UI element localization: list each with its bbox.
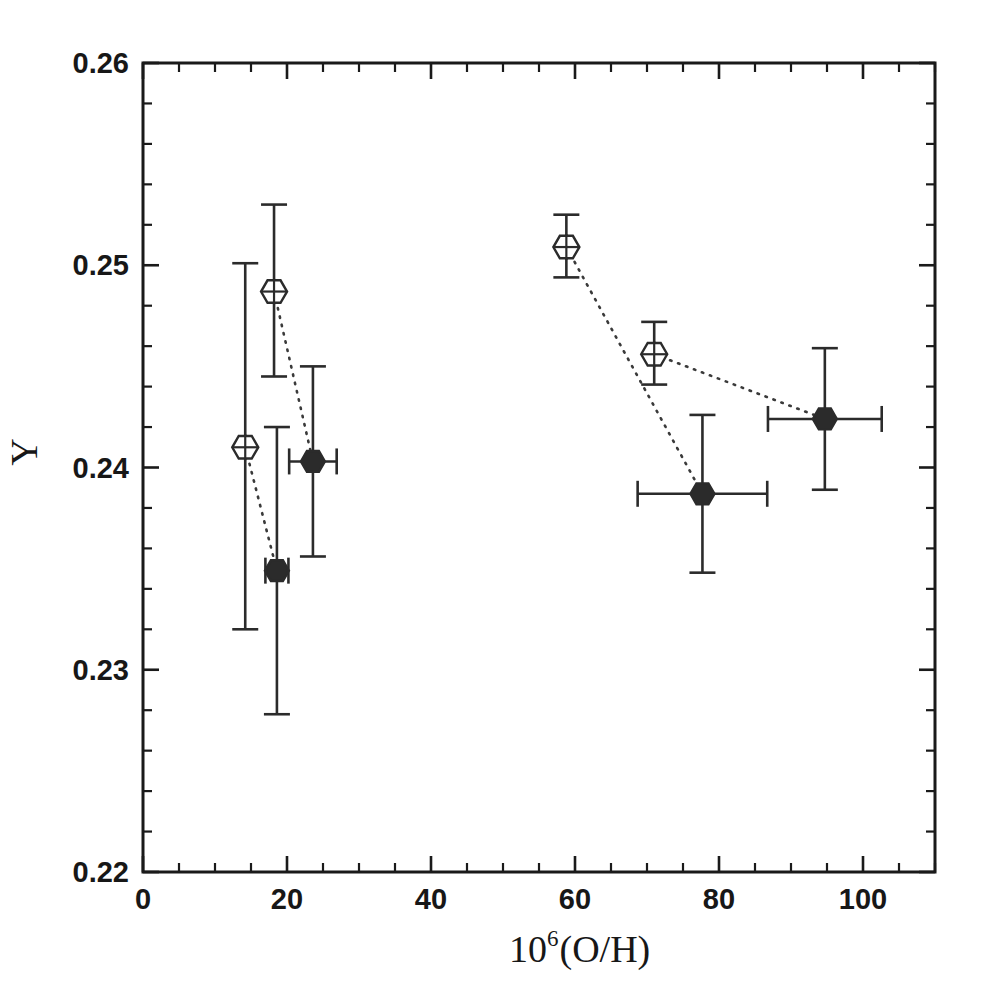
- data-markers: [232, 234, 837, 581]
- x-tick-label: 20: [271, 883, 303, 915]
- axis-tick-labels: 0204060801000.220.230.240.250.26: [73, 47, 888, 915]
- x-axis-label-exponent: 6: [547, 926, 559, 951]
- axis-ticks: [143, 63, 935, 872]
- x-tick-label: 100: [839, 883, 887, 915]
- x-tick-label: 0: [135, 883, 151, 915]
- x-tick-label: 60: [559, 883, 591, 915]
- filled-circle-marker: [265, 560, 289, 581]
- connector-line: [654, 354, 825, 419]
- x-tick-label: 40: [415, 883, 447, 915]
- connector-lines: [245, 247, 825, 571]
- y-tick-label: 0.25: [73, 249, 129, 281]
- connector-line: [245, 447, 277, 570]
- plot-canvas: 0204060801000.220.230.240.250.26 106(O/H…: [0, 0, 981, 1008]
- y-tick-label: 0.23: [73, 654, 129, 686]
- y-tick-label: 0.22: [73, 856, 129, 888]
- y-axis-label: Y: [3, 438, 45, 465]
- x-axis-label: 10: [509, 928, 547, 970]
- connector-line: [566, 247, 702, 494]
- filled-circle-marker: [813, 409, 837, 430]
- x-axis-label-rest: (O/H): [560, 928, 651, 971]
- error-bars: [232, 205, 881, 715]
- axes: [143, 63, 935, 872]
- scatter-plot-figure: 0204060801000.220.230.240.250.26 106(O/H…: [0, 0, 981, 1008]
- filled-circle-marker: [301, 451, 325, 472]
- x-tick-label: 80: [703, 883, 735, 915]
- filled-circle-marker: [690, 483, 714, 504]
- y-tick-label: 0.26: [73, 47, 129, 79]
- plot-frame: [143, 63, 935, 872]
- y-tick-label: 0.24: [73, 452, 129, 484]
- axis-labels: 106(O/H)Y: [3, 438, 650, 971]
